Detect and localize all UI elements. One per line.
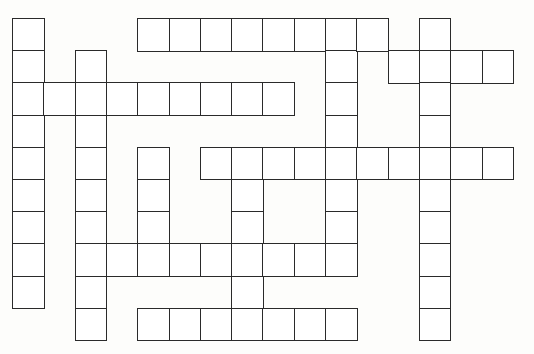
grid-cell[interactable] xyxy=(75,50,108,84)
grid-cell[interactable] xyxy=(419,82,452,116)
grid-cell[interactable] xyxy=(75,211,108,245)
grid-cell[interactable] xyxy=(75,243,108,277)
grid-cell[interactable] xyxy=(169,18,202,52)
grid-cell[interactable] xyxy=(356,147,389,181)
grid-cell[interactable] xyxy=(12,243,45,277)
grid-cell[interactable] xyxy=(262,308,295,342)
grid-cell[interactable] xyxy=(75,276,108,310)
grid-cell[interactable] xyxy=(12,147,45,181)
grid-cell[interactable] xyxy=(75,115,108,149)
grid-cell[interactable] xyxy=(325,147,358,181)
grid-cell[interactable] xyxy=(75,82,108,116)
grid-cell[interactable] xyxy=(200,243,233,277)
grid-cell[interactable] xyxy=(137,147,170,181)
grid-cell[interactable] xyxy=(325,243,358,277)
grid-cell[interactable] xyxy=(419,243,452,277)
grid-cell[interactable] xyxy=(12,211,45,245)
crossword-grid xyxy=(0,0,534,354)
grid-cell[interactable] xyxy=(137,243,170,277)
grid-cell[interactable] xyxy=(325,115,358,149)
grid-cell[interactable] xyxy=(325,50,358,84)
grid-cell[interactable] xyxy=(169,82,202,116)
grid-cell[interactable] xyxy=(325,18,358,52)
grid-cell[interactable] xyxy=(137,82,170,116)
grid-cell[interactable] xyxy=(450,147,483,181)
grid-cell[interactable] xyxy=(325,211,358,245)
grid-cell[interactable] xyxy=(137,211,170,245)
grid-cell[interactable] xyxy=(231,308,264,342)
grid-cell[interactable] xyxy=(294,243,327,277)
grid-cell[interactable] xyxy=(419,308,452,342)
grid-cell[interactable] xyxy=(137,18,170,52)
grid-cell[interactable] xyxy=(137,179,170,213)
grid-cell[interactable] xyxy=(12,82,45,116)
grid-cell[interactable] xyxy=(12,276,45,310)
grid-cell[interactable] xyxy=(106,82,139,116)
grid-cell[interactable] xyxy=(325,179,358,213)
grid-cell[interactable] xyxy=(200,147,233,181)
grid-cell[interactable] xyxy=(200,308,233,342)
grid-cell[interactable] xyxy=(294,18,327,52)
grid-cell[interactable] xyxy=(231,147,264,181)
grid-cell[interactable] xyxy=(419,18,452,52)
grid-cell[interactable] xyxy=(262,82,295,116)
grid-cell[interactable] xyxy=(419,50,452,84)
grid-cell[interactable] xyxy=(200,82,233,116)
grid-cell[interactable] xyxy=(169,243,202,277)
grid-cell[interactable] xyxy=(419,147,452,181)
grid-cell[interactable] xyxy=(12,115,45,149)
grid-cell[interactable] xyxy=(262,243,295,277)
grid-cell[interactable] xyxy=(43,82,76,116)
grid-cell[interactable] xyxy=(294,308,327,342)
grid-cell[interactable] xyxy=(419,276,452,310)
grid-cell[interactable] xyxy=(200,18,233,52)
grid-cell[interactable] xyxy=(75,308,108,342)
grid-cell[interactable] xyxy=(325,82,358,116)
grid-cell[interactable] xyxy=(325,308,358,342)
grid-cell[interactable] xyxy=(75,179,108,213)
grid-cell[interactable] xyxy=(262,18,295,52)
grid-cell[interactable] xyxy=(356,18,389,52)
grid-cell[interactable] xyxy=(231,276,264,310)
grid-cell[interactable] xyxy=(231,211,264,245)
grid-cell[interactable] xyxy=(419,115,452,149)
grid-cell[interactable] xyxy=(106,243,139,277)
grid-cell[interactable] xyxy=(388,147,421,181)
grid-cell[interactable] xyxy=(231,179,264,213)
grid-cell[interactable] xyxy=(75,147,108,181)
grid-cell[interactable] xyxy=(12,50,45,84)
grid-cell[interactable] xyxy=(294,147,327,181)
grid-cell[interactable] xyxy=(419,211,452,245)
grid-cell[interactable] xyxy=(137,308,170,342)
grid-cell[interactable] xyxy=(482,147,515,181)
grid-cell[interactable] xyxy=(482,50,515,84)
grid-cell[interactable] xyxy=(231,18,264,52)
grid-cell[interactable] xyxy=(231,82,264,116)
grid-cell[interactable] xyxy=(231,243,264,277)
grid-cell[interactable] xyxy=(388,50,421,84)
grid-cell[interactable] xyxy=(450,50,483,84)
grid-cell[interactable] xyxy=(262,147,295,181)
grid-cell[interactable] xyxy=(12,18,45,52)
grid-cell[interactable] xyxy=(12,179,45,213)
grid-cell[interactable] xyxy=(169,308,202,342)
grid-cell[interactable] xyxy=(419,179,452,213)
